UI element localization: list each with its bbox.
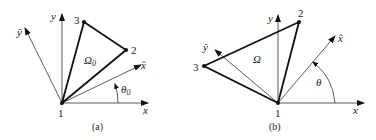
node-2-b — [297, 20, 301, 24]
axis-y-label-a: y — [50, 10, 56, 22]
region-label-a: Ω0 — [84, 54, 96, 68]
axis-xhat-label-a: x̂ — [140, 59, 146, 71]
axis-x-label-b: x — [352, 104, 358, 116]
angle-arc-a — [115, 84, 118, 103]
axis-yhat-label-a: ŷ — [16, 26, 22, 38]
panel-b: 1 2 3 x y x̂ ŷ Ω θ (b) — [193, 7, 364, 133]
region-label-b: Ω — [253, 53, 261, 65]
node-label-1-a: 1 — [58, 107, 64, 119]
angle-label-a: θ0 — [121, 83, 130, 97]
node-label-2-b: 2 — [298, 7, 304, 19]
caption-a: (a) — [92, 121, 103, 133]
panel-a: 1 2 3 x y x̂ ŷ Ω0 θ0 (a) — [16, 10, 148, 133]
angle-label-b: θ — [316, 76, 322, 88]
node-2-a — [124, 48, 128, 52]
axis-x-label-a: x — [142, 104, 148, 116]
triangle-element-b — [204, 22, 299, 103]
node-1-b — [276, 101, 280, 105]
node-label-2-a: 2 — [131, 44, 137, 56]
axis-xhat-label-b: x̂ — [337, 32, 343, 44]
node-3-a — [82, 20, 86, 24]
node-1-a — [60, 101, 64, 105]
axis-yhat-label-b: ŷ — [202, 41, 208, 53]
triangle-element-rotation-diagram: 1 2 3 x y x̂ ŷ Ω0 θ0 (a) 1 2 3 x y x̂ ŷ … — [0, 0, 376, 140]
axis-y-label-b: y — [267, 12, 273, 24]
node-label-3-a: 3 — [74, 14, 80, 26]
caption-b: (b) — [269, 121, 281, 133]
node-label-3-b: 3 — [193, 61, 199, 73]
node-3-b — [202, 64, 206, 68]
node-label-1-b: 1 — [275, 107, 281, 119]
yhat-axis-a — [25, 28, 62, 103]
